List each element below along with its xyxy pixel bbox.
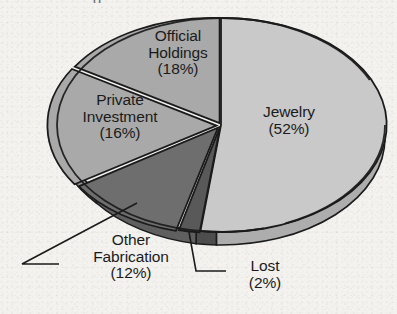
slice-label-private-investment-percent: (16%) xyxy=(56,125,184,142)
slice-label-private-investment-line2: Investment xyxy=(56,109,184,126)
slice-label-official-holdings-percent: (18%) xyxy=(128,61,228,78)
slice-label-other-fabrication-line1: Other xyxy=(62,232,200,249)
slice-label-private-investment-line1: Private xyxy=(56,92,184,109)
slice-label-jewelry: Jewelry (52%) xyxy=(243,104,335,137)
slice-label-lost: Lost (2%) xyxy=(229,258,301,291)
slice-label-other-fabrication-percent: (12%) xyxy=(62,265,200,282)
slice-label-other-fabrication-line2: Fabrication xyxy=(62,249,200,266)
slice-label-official-holdings: Official Holdings (18%) xyxy=(128,28,228,78)
slice-label-other-fabrication: Other Fabrication (12%) xyxy=(62,232,200,282)
slice-label-jewelry-percent: (52%) xyxy=(243,121,335,138)
slice-label-jewelry-line1: Jewelry xyxy=(243,104,335,121)
slice-label-official-holdings-line2: Holdings xyxy=(128,45,228,62)
slice-label-official-holdings-line1: Official xyxy=(128,28,228,45)
slice-label-lost-line1: Lost xyxy=(229,258,301,275)
slice-label-lost-percent: (2%) xyxy=(229,275,301,292)
slice-label-private-investment: Private Investment (16%) xyxy=(56,92,184,142)
pie-chart-figure: g xyxy=(0,0,397,314)
